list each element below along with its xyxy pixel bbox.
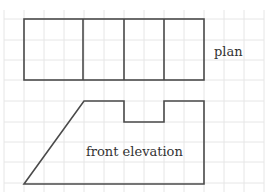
front-elevation-label: front elevation: [86, 144, 183, 159]
background: [0, 0, 271, 195]
diagram-canvas: plan front elevation: [0, 0, 271, 195]
plan-label: plan: [214, 44, 243, 59]
